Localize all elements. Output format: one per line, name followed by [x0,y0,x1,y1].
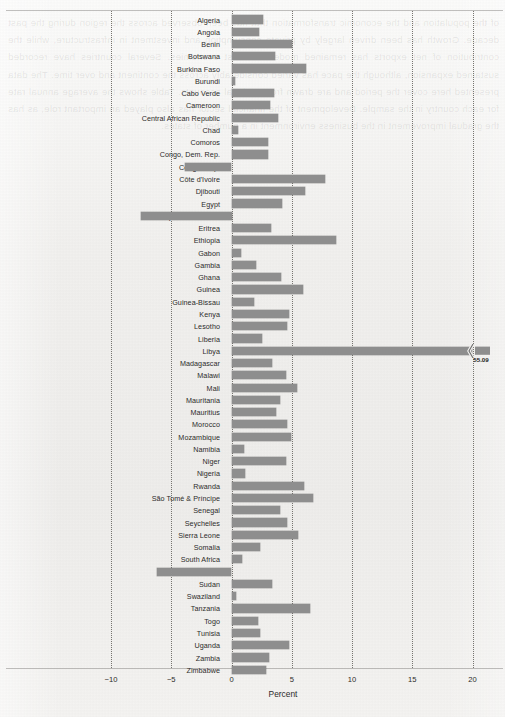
chart-top-rule [6,10,503,11]
bar [232,52,275,60]
bar [232,518,287,526]
bar [157,568,232,576]
category-label: Benin [0,40,220,49]
bar [232,236,337,244]
category-label: Burkina Faso [0,64,220,73]
bar [232,420,287,428]
category-label: Namibia [0,444,220,453]
bar [232,482,304,490]
bar [232,666,267,674]
bar [232,445,244,453]
category-label: Sudan [0,579,220,588]
bar [232,28,260,36]
x-tick-label-20: 20 [468,675,476,684]
x-tick-label-0: 0 [229,675,233,684]
category-label: Cabo Verde [0,89,220,98]
x-tick-label-15: 15 [408,675,416,684]
category-label: Central African Republic [0,113,220,122]
x-tick-label--5: −5 [167,675,176,684]
category-label: Angola [0,27,220,36]
bar [232,469,245,477]
category-label: Guinea-Bissau [0,297,220,306]
bar [232,604,310,612]
bar [232,249,242,257]
category-label: Zimbabwe [0,665,220,674]
bar [232,273,281,281]
bar [232,359,273,367]
bar [232,322,287,330]
category-label: Liberia [0,334,220,343]
category-label: Djibouti [0,187,220,196]
bar [232,64,307,72]
category-label: Somalia [0,543,220,552]
bar [232,384,297,392]
gridline-15 [412,11,413,668]
bar-value-label: 55.09 [473,356,488,363]
bar [232,653,269,661]
bar [232,592,237,600]
bar [232,531,298,539]
category-label: Eritrea [0,224,220,233]
bar [185,163,232,171]
bar [232,126,238,134]
bar [232,175,326,183]
category-label: Kenya [0,309,220,318]
bar [232,334,262,342]
bar [232,150,268,158]
gridline-10 [352,11,353,668]
bar [232,555,243,563]
bar [232,641,290,649]
bar [232,285,303,293]
category-label: Egypt [0,199,220,208]
category-label: Malawi [0,371,220,380]
category-label: Algeria [0,15,220,24]
bar [232,15,263,23]
category-label: Sierra Leone [0,530,220,539]
category-label: Seychelles [0,518,220,527]
bar [232,89,274,97]
category-label: Uganda [0,641,220,650]
category-label: Madagascar [0,359,220,368]
category-label: South Africa [0,555,220,564]
bar [232,40,292,48]
gridline-5 [292,11,293,668]
bar [232,77,236,85]
bar [232,298,255,306]
category-label: Rwanda [0,481,220,490]
bar [232,433,291,441]
bar [232,506,280,514]
x-axis-title: Percent [269,689,298,699]
category-label: Senegal [0,506,220,515]
x-tick-label--10: −10 [105,675,118,684]
category-label: Togo [0,616,220,625]
category-label: Ethiopia [0,236,220,245]
category-label: Libya [0,346,220,355]
category-label: Morocco [0,420,220,429]
category-label: Nigeria [0,469,220,478]
category-label: São Tomé & Príncipe [0,494,220,503]
category-label: Mauritania [0,395,220,404]
category-label: Chad [0,125,220,134]
category-label: Guinea [0,285,220,294]
category-label: Mozambique [0,432,220,441]
x-tick-label-5: 5 [290,675,294,684]
bar [232,199,283,207]
category-label: Mali [0,383,220,392]
category-label: Ghana [0,273,220,282]
bar [232,617,259,625]
category-label: Burundi [0,76,220,85]
bar [232,408,277,416]
bar [232,580,273,588]
bar [141,212,231,220]
bar [232,347,473,355]
bar [232,543,261,551]
bar [232,494,314,502]
bar [232,310,290,318]
category-label: Tunisia [0,629,220,638]
bar [232,138,268,146]
bar [232,629,261,637]
category-label: Congo, Dem. Rep. [0,150,220,159]
category-label: Botswana [0,52,220,61]
category-label: Comoros [0,138,220,147]
bar-chart: AlgeriaAngolaBeninBotswanaBurkina FasoBu… [0,0,505,717]
